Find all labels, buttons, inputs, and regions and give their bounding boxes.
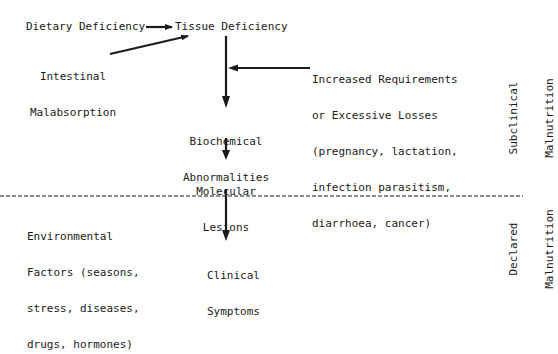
molecular-line-1: Molecular bbox=[186, 186, 266, 198]
requirements-line-5: diarrhoea, cancer) bbox=[312, 218, 458, 230]
arrow-malabsorption-to-tissue bbox=[110, 36, 188, 54]
arrowhead-tissue-to-biochemical bbox=[222, 96, 230, 108]
label-subclinical-malnutrition: Subclinical Malnutrition bbox=[484, 73, 510, 163]
requirements-line-4: infection parasitism, bbox=[312, 182, 458, 194]
subclinical-line-1: Subclinical bbox=[508, 73, 520, 163]
requirements-line-1: Increased Requirements bbox=[312, 74, 458, 86]
environmental-line-2: Factors (seasons, bbox=[27, 267, 140, 279]
environmental-line-4: drugs, hormones) bbox=[27, 339, 140, 351]
declared-line-2: Malnutrition bbox=[544, 204, 556, 294]
biochemical-line-1: Biochemical bbox=[176, 136, 276, 148]
node-molecular-lesions: Molecular Lesions bbox=[186, 162, 266, 258]
clinical-line-2: Symptoms bbox=[207, 306, 260, 318]
requirements-line-3: (pregnancy, lactation, bbox=[312, 146, 458, 158]
arrowhead-requirements bbox=[228, 65, 238, 72]
declared-line-1: Declared bbox=[508, 204, 520, 294]
node-tissue-deficiency: Tissue Deficiency bbox=[175, 21, 288, 33]
node-dietary-deficiency: Dietary Deficiency bbox=[26, 21, 145, 33]
environmental-line-1: Environmental bbox=[27, 231, 140, 243]
node-clinical-symptoms: Clinical Symptoms bbox=[207, 246, 260, 342]
environmental-line-3: stress, diseases, bbox=[27, 303, 140, 315]
malabsorption-line-1: Intestinal bbox=[30, 71, 116, 83]
molecular-line-2: Lesions bbox=[186, 222, 266, 234]
node-intestinal-malabsorption: Intestinal Malabsorption bbox=[30, 47, 116, 143]
malabsorption-line-2: Malabsorption bbox=[30, 107, 116, 119]
subclinical-line-2: Malnutrition bbox=[544, 73, 556, 163]
requirements-line-2: or Excessive Losses bbox=[312, 110, 458, 122]
node-increased-requirements: Increased Requirements or Excessive Loss… bbox=[312, 50, 458, 254]
node-environmental-factors: Environmental Factors (seasons, stress, … bbox=[27, 207, 140, 354]
label-declared-malnutrition: Declared Malnutrition bbox=[484, 204, 510, 294]
clinical-line-1: Clinical bbox=[207, 270, 260, 282]
